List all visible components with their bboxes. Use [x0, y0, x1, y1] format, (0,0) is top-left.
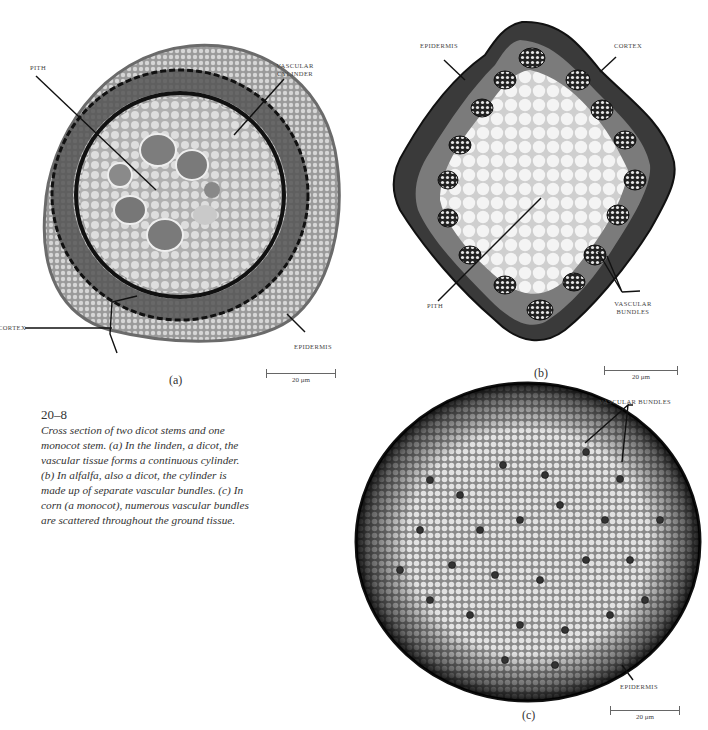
- caption-line-6: corn (a monocot), numerous vascular bund…: [41, 498, 341, 513]
- label-epidermis-a: EPIDERMIS: [290, 343, 336, 351]
- scale-bar-a: 20 μm: [266, 369, 336, 379]
- scale-bar-b: 20 μm: [604, 366, 678, 376]
- label-epidermis-c: EPIDERMIS: [615, 683, 663, 691]
- label-vascular-bundles-b-line1: VASCULAR: [608, 300, 658, 308]
- label-vascular-bundles-b-line2: BUNDLES: [608, 308, 658, 316]
- figure-number: 20–8: [41, 407, 341, 423]
- label-vascular-bundles-c: VASCULAR BUNDLES: [590, 398, 680, 406]
- label-vascular-bundles-b: VASCULAR BUNDLES: [608, 300, 658, 316]
- scale-bar-b-label: 20 μm: [604, 373, 678, 381]
- label-vascular-cylinder-line1: VASCULAR: [270, 62, 320, 70]
- caption-line-4: (b) In alfalfa, also a dicot, the cylind…: [41, 468, 341, 483]
- scale-bar-c-label: 20 μm: [610, 713, 680, 721]
- label-pith-b: PITH: [420, 302, 450, 310]
- caption-line-7: are scattered throughout the ground tiss…: [41, 513, 341, 528]
- linden-stem-section: [44, 45, 339, 341]
- micrograph-linden-stem: [0, 0, 708, 730]
- label-vascular-cylinder-line2: CYLINDER: [270, 70, 320, 78]
- figure-caption: 20–8 Cross section of two dicot stems an…: [41, 407, 341, 528]
- alfalfa-stem-section: [394, 22, 675, 340]
- panel-letter-a: (a): [169, 373, 182, 388]
- corn-stem-section: [356, 383, 700, 701]
- scale-bar-a-label: 20 μm: [266, 376, 336, 384]
- scale-bar-c: 20 μm: [610, 706, 680, 716]
- label-epidermis-b: EPIDERMIS: [414, 42, 464, 50]
- cortex-leader-line: [600, 57, 616, 72]
- panel-letter-b: (b): [534, 366, 548, 381]
- caption-line-1: Cross section of two dicot stems and one: [41, 423, 341, 438]
- label-cortex-b: CORTEX: [608, 42, 648, 50]
- epidermis-leader-line-b: [444, 60, 465, 80]
- caption-line-2: monocot stem. (a) In the linden, a dicot…: [41, 438, 341, 453]
- caption-line-3: vascular tissue forms a continuous cylin…: [41, 453, 341, 468]
- panel-letter-c: (c): [522, 708, 535, 723]
- caption-line-5: made up of separate vascular bundles. (c…: [41, 483, 341, 498]
- label-vascular-cylinder: VASCULAR CYLINDER: [270, 62, 320, 78]
- label-pith-a: PITH: [20, 64, 56, 72]
- label-cortex-a: CORTEX: [0, 324, 26, 332]
